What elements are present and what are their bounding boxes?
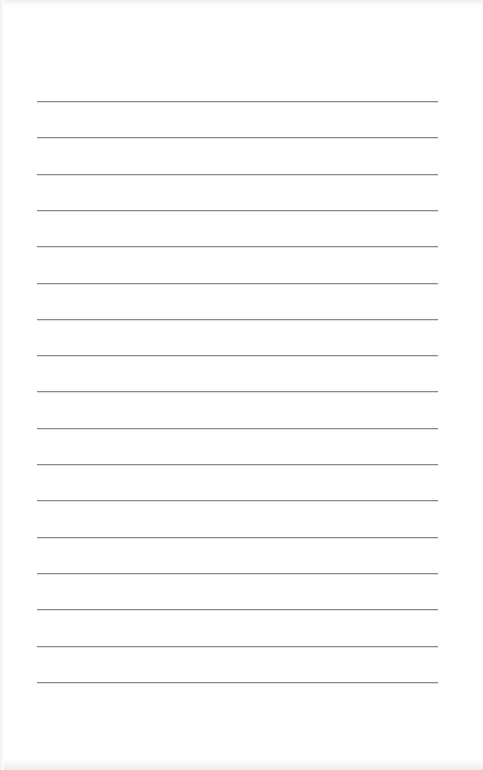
ruled-line (37, 682, 438, 683)
ruled-line (37, 391, 438, 392)
ruled-line (37, 646, 438, 647)
ruled-line (37, 428, 438, 429)
ruled-line (37, 319, 438, 320)
ruled-line (37, 537, 438, 538)
ruled-line (37, 283, 438, 284)
ruled-line (37, 174, 438, 175)
ruled-line (37, 355, 438, 356)
ruled-line (37, 210, 438, 211)
ruled-line (37, 573, 438, 574)
ruled-line (37, 464, 438, 465)
ruled-line (37, 609, 438, 610)
ruled-line (37, 101, 438, 102)
ruled-line (37, 500, 438, 501)
ruled-line (37, 246, 438, 247)
ruled-line (37, 137, 438, 138)
ruled-lines (0, 0, 483, 770)
lined-paper-page (0, 0, 483, 770)
